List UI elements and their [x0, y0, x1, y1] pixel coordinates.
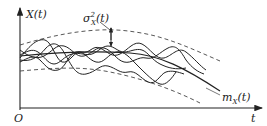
mean-arg: (t) [237, 91, 250, 104]
lower-bound-curve [20, 68, 200, 103]
variance-symbol: σ [83, 12, 91, 25]
origin-label: O [14, 113, 23, 124]
variance-sup: 2 [91, 11, 95, 19]
mean-symbol: m [222, 91, 232, 104]
realization-1 [20, 40, 206, 70]
x-axis-label: t [251, 113, 255, 124]
mean-label: mX(t) [222, 92, 250, 106]
y-axis-label: X(t) [26, 9, 47, 20]
variance-label: σ2X(t) [83, 12, 109, 27]
realization-2 [20, 46, 204, 74]
variance-arg: (t) [96, 12, 109, 25]
